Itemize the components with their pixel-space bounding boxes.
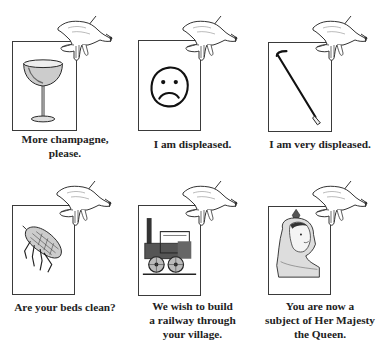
- caption: I am displeased.: [125, 137, 260, 151]
- hand-icon: [183, 179, 243, 231]
- hand-icon: [313, 14, 373, 66]
- caption-line: We wish to build: [125, 299, 260, 313]
- caption: Are your beds clean?: [0, 300, 130, 314]
- caption-line: I am very displeased.: [255, 137, 385, 151]
- caption: You are now a subject of Her Majesty the…: [255, 299, 385, 341]
- caption-line: your village.: [125, 327, 260, 341]
- panel-champagne: More champagne, please.: [0, 0, 130, 175]
- panel-queen: You are now a subject of Her Majesty the…: [255, 175, 385, 357]
- caption-line: please.: [0, 146, 130, 160]
- panel-crowbar: I am very displeased.: [255, 0, 385, 175]
- caption: We wish to build a railway through your …: [125, 299, 260, 341]
- caption: More champagne, please.: [0, 132, 130, 160]
- caption-line: a railway through: [125, 313, 260, 327]
- caption-line: More champagne,: [0, 132, 130, 146]
- caption-line: I am displeased.: [125, 137, 260, 151]
- hand-icon: [313, 179, 373, 231]
- caption-line: the Queen.: [255, 327, 385, 341]
- caption-line: You are now a: [255, 299, 385, 313]
- panel-sad-face: I am displeased.: [125, 0, 260, 175]
- hand-icon: [57, 179, 117, 231]
- caption-line: Are your beds clean?: [0, 300, 130, 314]
- hand-icon: [183, 14, 243, 66]
- panel-locomotive: We wish to build a railway through your …: [125, 175, 260, 357]
- caption-line: subject of Her Majesty: [255, 313, 385, 327]
- caption: I am very displeased.: [255, 137, 385, 151]
- hand-icon: [58, 14, 118, 66]
- panel-flea: Are your beds clean?: [0, 175, 130, 357]
